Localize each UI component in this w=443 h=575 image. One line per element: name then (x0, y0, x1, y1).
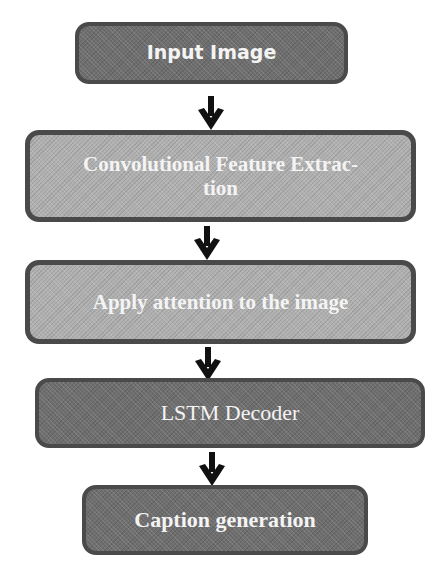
node-label: LSTM Decoder (161, 400, 300, 425)
node-label-line-1: Convolutional Feature Extrac- (83, 152, 358, 176)
node-conv-feature-extraction: Convolutional Feature Extrac- tion (25, 130, 416, 222)
node-input-image: Input Image (75, 22, 348, 84)
arrow-down-icon (198, 452, 226, 486)
node-label: Apply attention to the image (93, 290, 349, 314)
node-label-line-2: tion (203, 176, 238, 200)
node-lstm-decoder: LSTM Decoder (35, 378, 425, 448)
node-label: Input Image (147, 42, 277, 64)
node-label: Caption generation (134, 507, 316, 532)
node-apply-attention: Apply attention to the image (25, 260, 416, 344)
arrow-down-icon (194, 347, 222, 381)
node-caption-generation: Caption generation (82, 485, 368, 555)
arrow-down-icon (197, 96, 225, 130)
arrow-down-icon (193, 226, 221, 260)
